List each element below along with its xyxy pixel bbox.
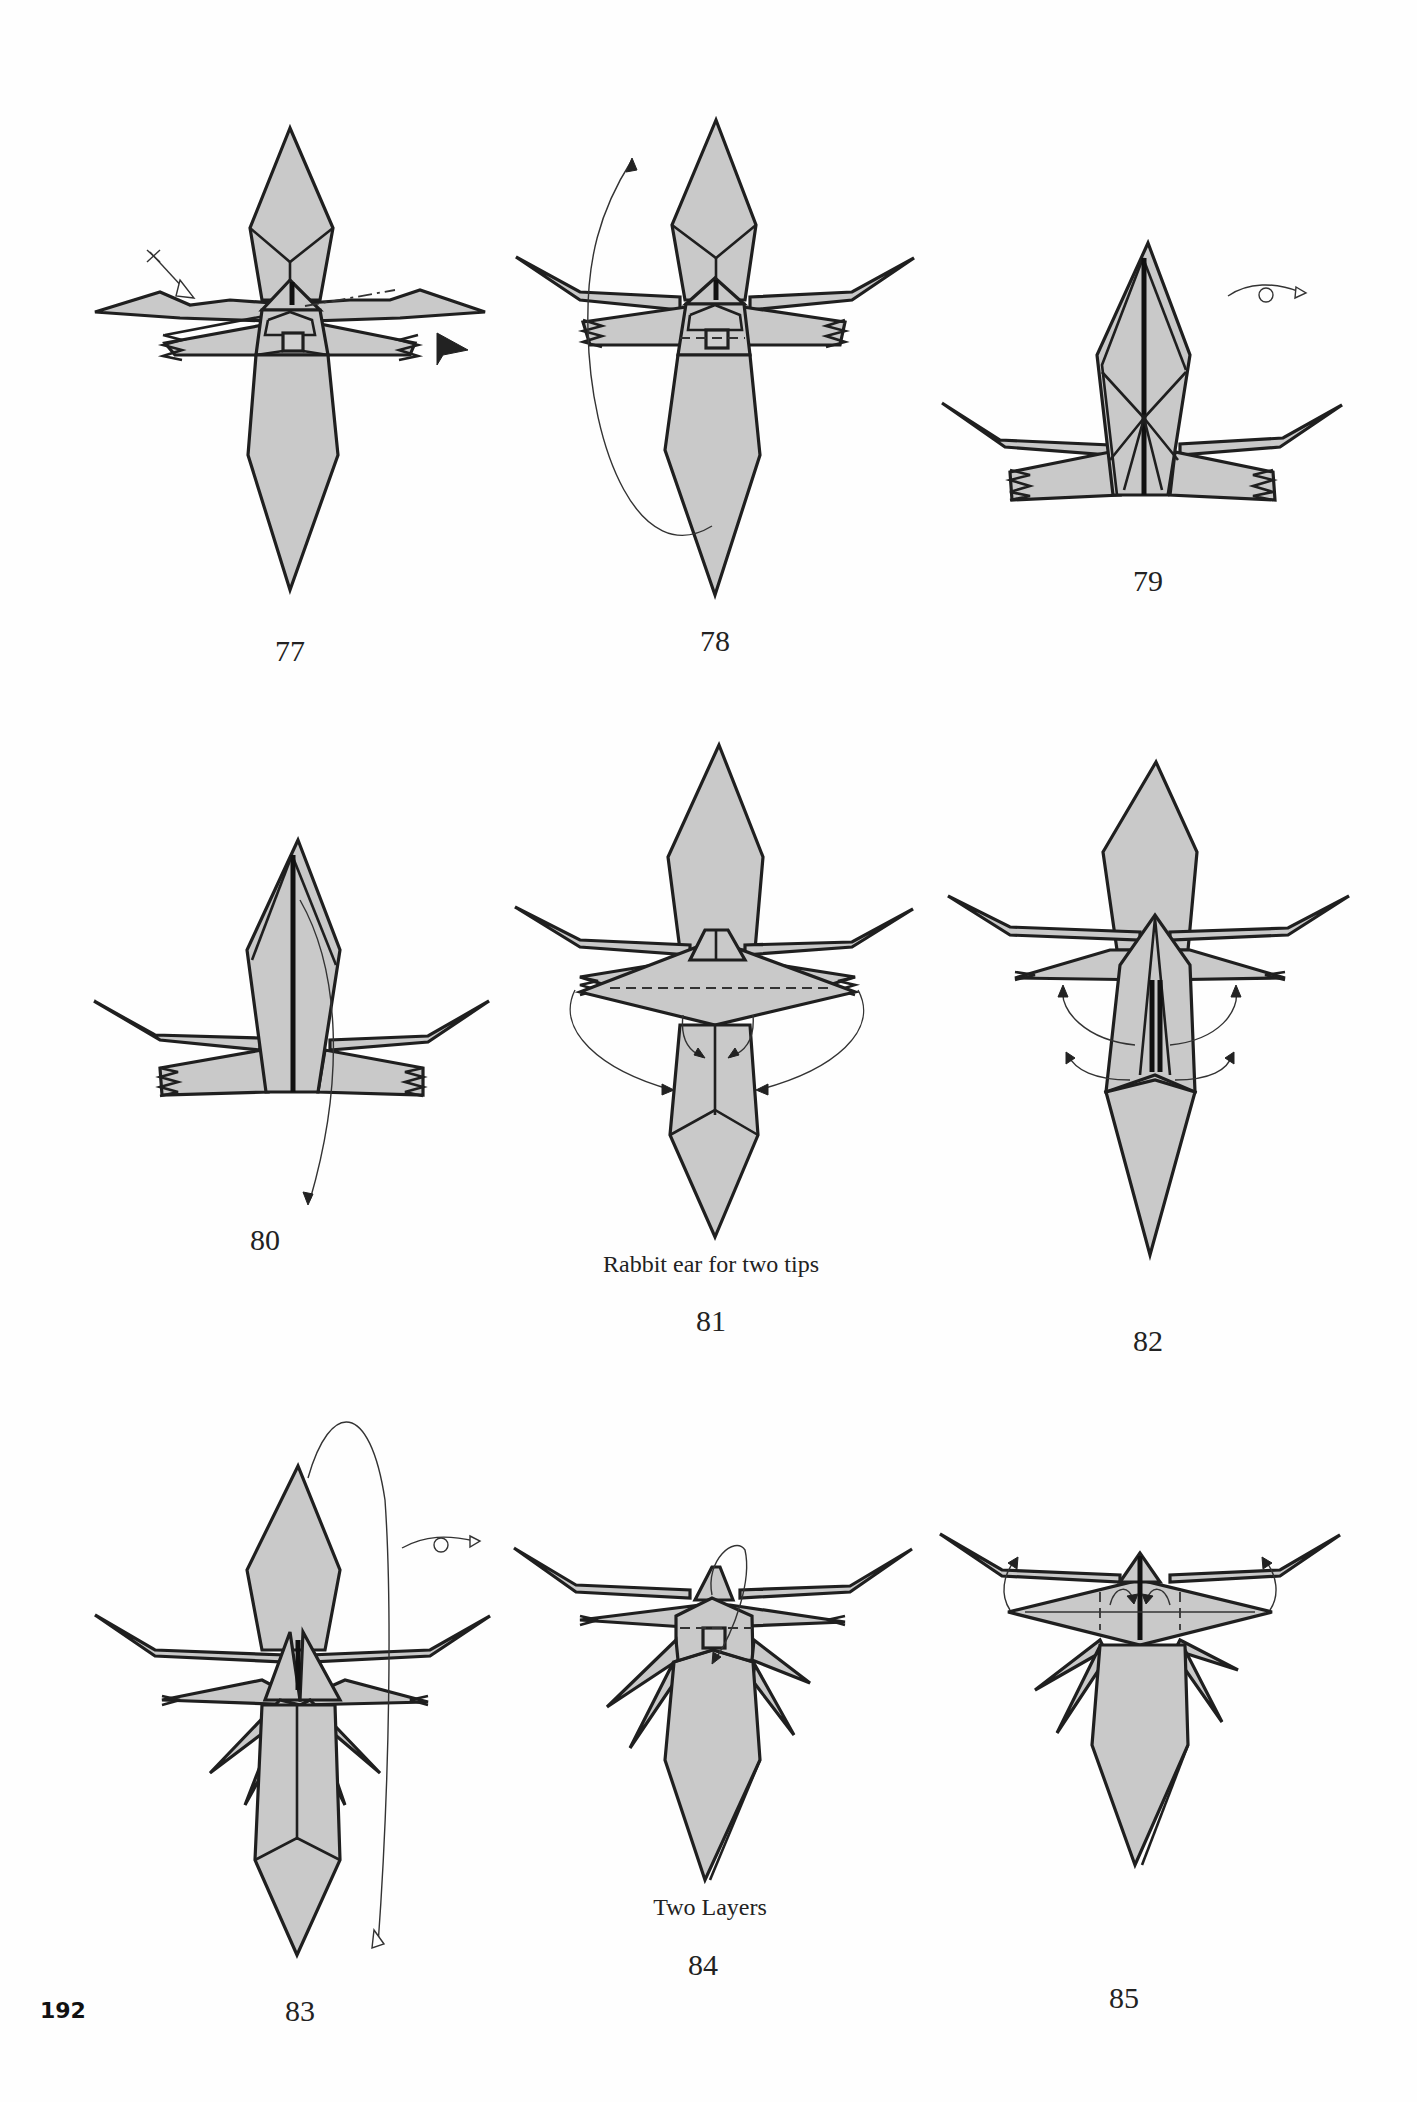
diagram-step-85	[940, 1534, 1340, 1865]
diagram-step-78	[516, 120, 914, 595]
step-number-80: 80	[250, 1225, 280, 1255]
step-number-85: 85	[1109, 1983, 1139, 2013]
diagram-step-84	[514, 1546, 912, 1880]
diagram-step-81	[515, 745, 913, 1237]
step-number-82: 82	[1133, 1326, 1163, 1356]
step-number-77: 77	[275, 636, 305, 666]
step-number-79: 79	[1133, 566, 1163, 596]
step-number-84: 84	[688, 1950, 718, 1980]
diagram-step-83	[95, 1422, 490, 1955]
diagram-step-77	[95, 128, 485, 590]
step-number-78: 78	[700, 626, 730, 656]
step-number-81: 81	[696, 1306, 726, 1336]
origami-diagrams	[0, 0, 1417, 2102]
step-caption-81: Rabbit ear for two tips	[603, 1252, 819, 1276]
diagram-step-82	[948, 762, 1349, 1255]
page-number: 192	[40, 2000, 86, 2022]
step-number-83: 83	[285, 1996, 315, 2026]
diagram-step-79	[942, 243, 1342, 500]
instruction-page: 77 78 79 80 Rabbit ear for two tips 81 8…	[0, 0, 1417, 2102]
diagram-step-80	[94, 840, 489, 1205]
step-caption-84: Two Layers	[653, 1895, 767, 1919]
